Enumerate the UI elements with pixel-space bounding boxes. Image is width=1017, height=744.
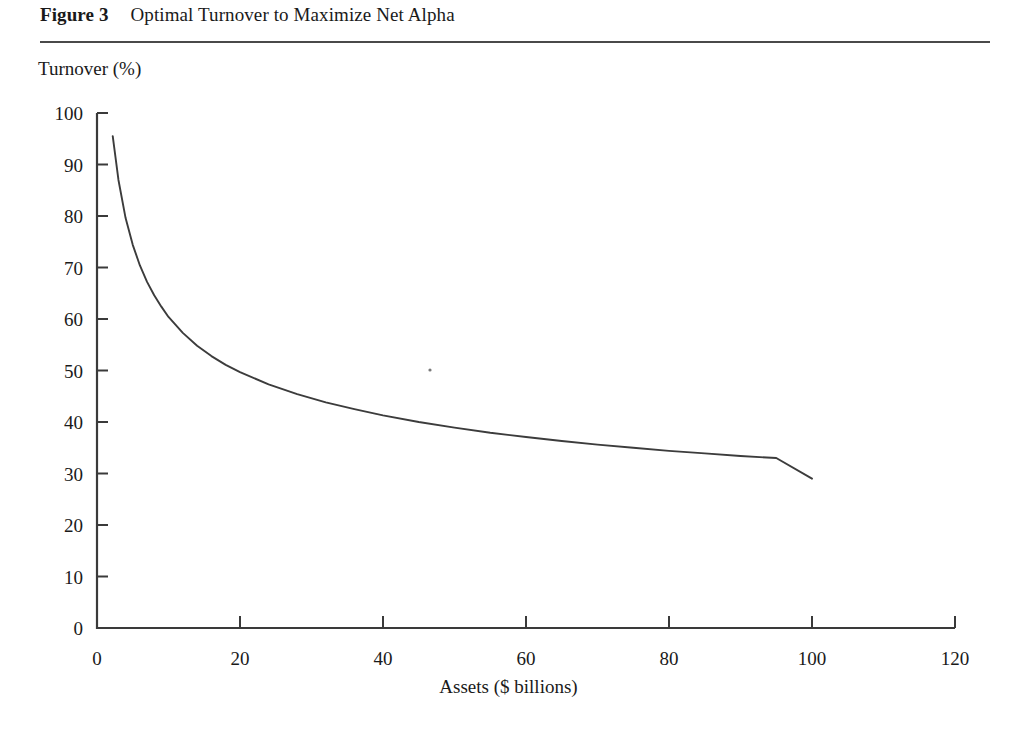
- x-tick-label: 80: [660, 648, 679, 669]
- x-tick-marks: [240, 616, 955, 628]
- y-tick-label: 30: [64, 464, 83, 485]
- y-tick-label: 10: [64, 567, 83, 588]
- scan-speck: [428, 368, 431, 371]
- x-tick-label: 20: [231, 648, 250, 669]
- x-tick-label: 40: [374, 648, 393, 669]
- x-tick-label: 0: [92, 648, 102, 669]
- x-tick-label: 100: [798, 648, 827, 669]
- y-tick-labels: 100 90 80 70 60 50 40 30 20 10 0: [55, 103, 84, 639]
- axis-lines: [97, 113, 955, 628]
- x-tick-labels: 0 20 40 60 80 100 120: [92, 648, 969, 669]
- y-tick-label: 100: [55, 103, 84, 124]
- y-tick-label: 60: [64, 309, 83, 330]
- y-tick-label: 50: [64, 361, 83, 382]
- y-tick-label: 90: [64, 155, 83, 176]
- turnover-curve: [113, 136, 812, 478]
- y-tick-marks: [97, 113, 108, 577]
- figure-container: Figure 3Optimal Turnover to Maximize Net…: [0, 0, 1017, 744]
- y-tick-label: 0: [74, 618, 84, 639]
- y-tick-label: 20: [64, 515, 83, 536]
- x-tick-label: 120: [941, 648, 970, 669]
- y-tick-label: 70: [64, 258, 83, 279]
- y-tick-label: 80: [64, 206, 83, 227]
- x-tick-label: 60: [517, 648, 536, 669]
- chart-plot: 100 90 80 70 60 50 40 30 20 10 0 0 20 40…: [0, 0, 1017, 744]
- y-tick-label: 40: [64, 412, 83, 433]
